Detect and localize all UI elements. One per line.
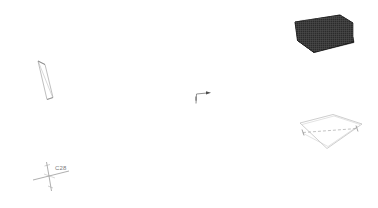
entity-wireframe-panel[interactable] xyxy=(300,115,362,149)
cad-3d-viewport[interactable]: C28 xyxy=(0,0,378,208)
gnomon-y-axis xyxy=(49,171,69,176)
scene-canvas[interactable]: C28 xyxy=(0,0,378,208)
entity-angled-quad[interactable] xyxy=(38,61,53,100)
panel-outline xyxy=(300,115,362,149)
marker-origin-node xyxy=(195,97,197,101)
gnomon-z-axis-up xyxy=(47,162,50,176)
gnomon-x-axis xyxy=(33,176,49,180)
gnomon-label: C28 xyxy=(55,165,67,171)
direction-arrow-marker[interactable] xyxy=(195,91,211,103)
arrow-head-icon xyxy=(206,91,211,94)
entity-shaded-slab[interactable] xyxy=(295,15,354,53)
marker-horizontal-leg xyxy=(197,93,208,94)
gnomon-z-axis-down xyxy=(49,176,52,191)
coordinate-gnomon[interactable]: C28 xyxy=(33,162,69,191)
